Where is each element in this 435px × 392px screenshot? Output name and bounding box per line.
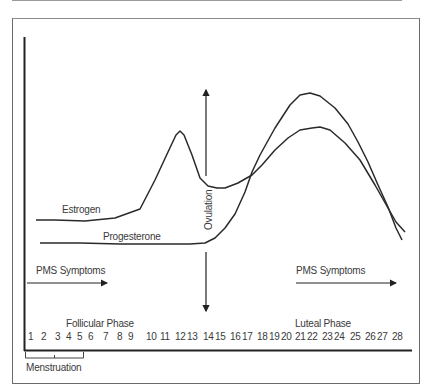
estrogen-curve [36, 127, 405, 232]
tick-10: 10 [146, 331, 157, 342]
menstrual-cycle-diagram: Estrogen Progesterone Ovulation PMS Symp… [0, 0, 435, 392]
tick-16: 16 [230, 331, 241, 342]
tick-26: 26 [365, 331, 376, 342]
tick-8: 8 [117, 331, 123, 342]
progesterone-curve [40, 93, 402, 244]
tick-25: 25 [350, 331, 361, 342]
tick-24: 24 [334, 331, 345, 342]
tick-14: 14 [203, 331, 214, 342]
tick-1: 1 [28, 331, 34, 342]
tick-12: 12 [175, 331, 186, 342]
ovulation-label: Ovulation [203, 190, 214, 230]
tick-21: 21 [295, 331, 306, 342]
tick-20: 20 [281, 331, 292, 342]
follicular-phase-label: Follicular Phase [66, 318, 135, 329]
tick-9: 9 [128, 331, 134, 342]
tick-2: 2 [41, 331, 47, 342]
tick-17: 17 [242, 331, 253, 342]
tick-13: 13 [187, 331, 198, 342]
menstruation-label: Menstruation [26, 362, 81, 373]
pms-symptoms-right-label: PMS Symptoms [296, 265, 365, 276]
tick-18: 18 [257, 331, 268, 342]
tick-6: 6 [88, 331, 94, 342]
tick-7: 7 [103, 331, 109, 342]
tick-22: 22 [307, 331, 318, 342]
estrogen-label: Estrogen [62, 204, 100, 215]
tick-4: 4 [66, 331, 72, 342]
tick-5: 5 [77, 331, 83, 342]
tick-3: 3 [55, 331, 61, 342]
tick-19: 19 [269, 331, 280, 342]
tick-28: 28 [392, 331, 403, 342]
pms-symptoms-left-label: PMS Symptoms [36, 265, 105, 276]
tick-27: 27 [377, 331, 388, 342]
menstruation-bracket [26, 352, 84, 358]
tick-15: 15 [215, 331, 226, 342]
tick-23: 23 [322, 331, 333, 342]
luteal-phase-label: Luteal Phase [295, 318, 352, 329]
tick-11: 11 [160, 331, 171, 342]
x-tick-labels: 1 2 3 4 5 6 7 8 9 10 11 12 13 14 15 16 1… [28, 331, 403, 342]
progesterone-label: Progesterone [103, 231, 161, 242]
